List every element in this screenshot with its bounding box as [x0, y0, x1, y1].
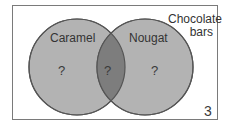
caramel-only-value: ?: [58, 63, 65, 78]
universe-label-line2: bars: [168, 25, 213, 39]
outside-value: 3: [204, 103, 212, 119]
caramel-label: Caramel: [50, 31, 95, 45]
nougat-label: Nougat: [129, 31, 168, 45]
nougat-only-value: ?: [151, 63, 158, 78]
intersection-value: ?: [104, 63, 111, 78]
universe-label-line1: Chocolate: [168, 12, 213, 26]
